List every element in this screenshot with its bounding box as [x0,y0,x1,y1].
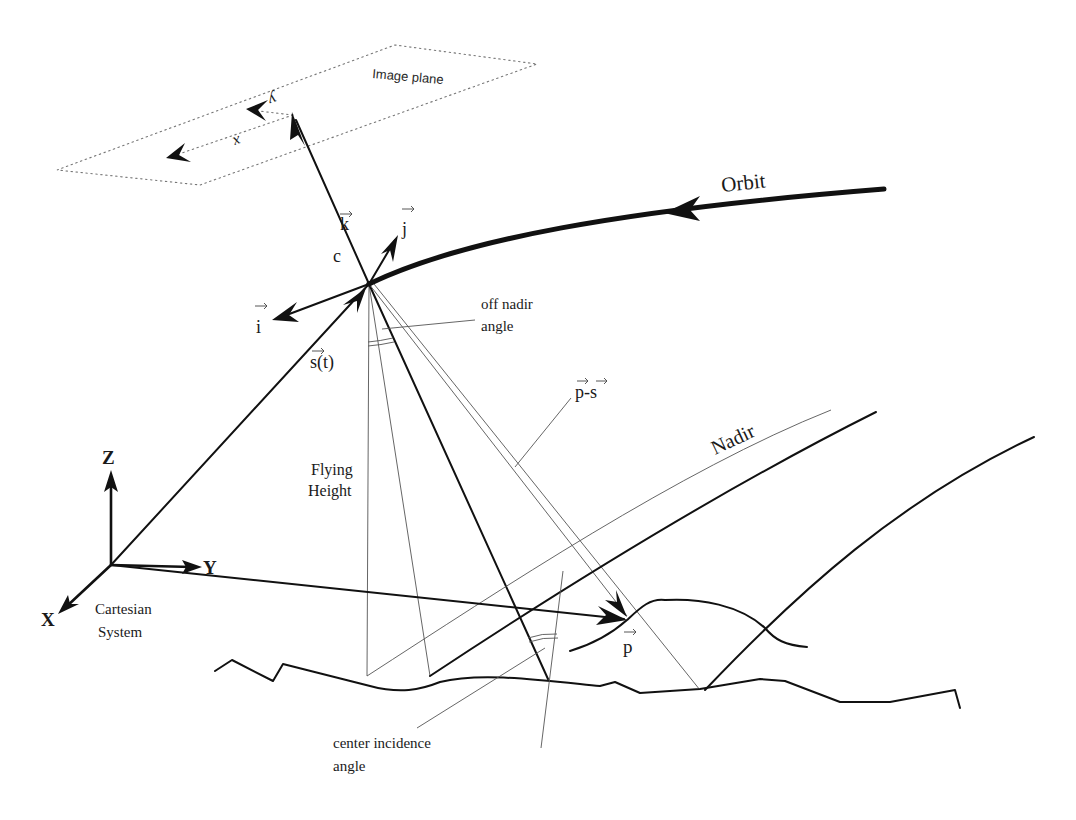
vector-i: i [255,284,369,337]
off-nadir-arc-2 [368,342,394,346]
scan-track-near [430,412,876,676]
center-incidence-label-line1: center incidence [333,735,431,751]
terrain-feature-p [570,600,807,651]
image-x-label: x [231,133,244,152]
p-minus-s-leader [515,398,571,467]
ground-tracks: Nadir [367,410,1034,690]
cartesian-system: Z Y X Cartesian System [41,447,217,640]
vector-j-arrow-icon [402,206,414,212]
vector-p: p [111,565,636,657]
image-plane-label: Image plane [372,66,445,87]
off-nadir-arc-1 [368,338,393,342]
satellite-position [367,282,372,287]
incidence-arc-1 [528,634,557,638]
off-nadir-leader [382,320,475,329]
vector-k-arrowhead-icon [290,112,305,146]
orbit: Orbit [369,168,884,284]
orbit-curve [369,189,884,284]
incidence-arc-2 [529,638,558,642]
vector-s-t: s(t) [111,284,369,565]
cartesian-label-line1: Cartesian [95,601,152,617]
vector-s-t-line [111,284,369,565]
image-y-arrowhead-icon [246,100,268,121]
image-plane-outline [57,45,537,185]
ray-center-look [369,284,548,679]
view-rays [367,284,700,690]
image-plane: Image plane y x [57,45,537,185]
nadir-track-line [367,410,831,676]
terrain-profile [215,660,960,708]
off-nadir-label-line1: off nadir [481,296,533,312]
flying-height-label-line2: Height [308,482,352,500]
vector-j-label: j [401,219,407,239]
center-incidence-label-line2: angle [333,758,366,774]
orbit-label: Orbit [720,168,767,197]
s-t-label: s(t) [310,352,334,373]
image-y-label: y [265,89,281,110]
vector-i-arrow-icon [255,303,267,309]
vector-i-label: i [256,317,261,337]
p-minus-s-label: p-s [575,382,597,402]
cartesian-label-line2: System [98,624,143,640]
off-nadir-label-line2: angle [481,318,514,334]
vector-p-label: p [623,636,633,657]
center-incidence [417,571,563,748]
x-axis-label: X [41,609,55,630]
scan-track-far [705,437,1034,690]
vector-p-arrow-icon [624,629,636,635]
nadir-label: Nadir [707,419,758,458]
flying-height-label-line1: Flying [311,461,353,479]
satellite-geometry-diagram: Image plane y x Orbit k c j i [0,0,1076,820]
image-x-arrowhead-icon [166,143,191,162]
vector-k: k c [290,112,369,284]
vector-k-label: k [340,214,349,234]
flying-height-line [367,284,369,676]
z-axis-label: Z [102,447,115,468]
c-label: c [333,246,341,266]
incidence-leader [417,648,545,728]
